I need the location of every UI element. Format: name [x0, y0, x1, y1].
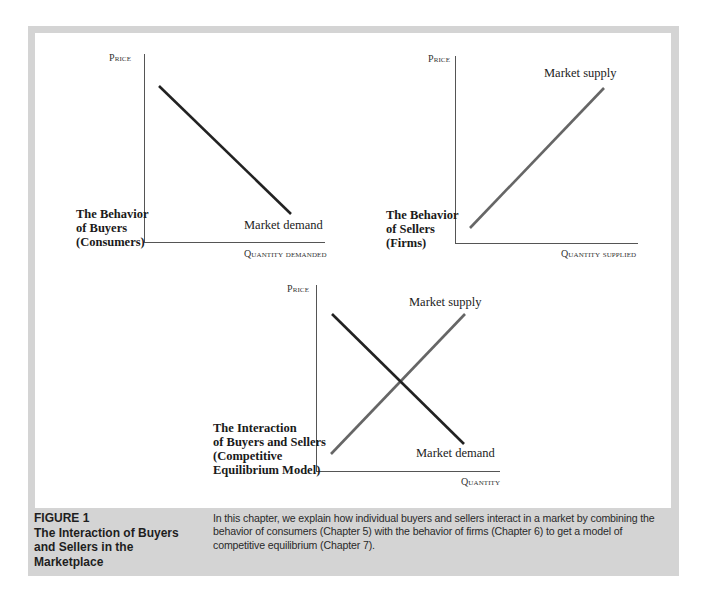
figure-title-line: The Interaction of Buyers: [34, 526, 204, 541]
demand-curve: [332, 314, 464, 444]
y-axis-label: Price: [428, 53, 450, 64]
chart-buyers: [144, 54, 325, 243]
panel-title-sellers: The Behavior of Sellers (Firms): [386, 208, 459, 250]
panel-title-buyers: The Behavior of Buyers (Consumers): [76, 207, 149, 249]
y-axis-label: Price: [109, 52, 131, 63]
supply-curve-label: Market supply: [409, 295, 482, 310]
figure-number: FIGURE 1: [34, 511, 204, 526]
figure-charts: [0, 0, 705, 596]
chart-sellers: [455, 56, 638, 244]
x-axis-label: Quantity supplied: [561, 248, 636, 259]
supply-curve-label: Market supply: [544, 66, 617, 81]
demand-curve-label: Market demand: [416, 446, 495, 461]
demand-curve: [159, 86, 291, 214]
panel-title-equilibrium: The Interaction of Buyers and Sellers (C…: [213, 421, 326, 477]
supply-curve: [331, 314, 465, 454]
supply-curve: [470, 88, 604, 228]
figure-title-line: Marketplace: [34, 555, 204, 570]
x-axis-label: Quantity demanded: [244, 248, 327, 259]
y-axis-label: Price: [287, 283, 309, 294]
figure-caption-text: In this chapter, we explain how individu…: [213, 512, 673, 552]
chart-equilibrium: [316, 285, 500, 472]
figure-title-line: and Sellers in the: [34, 540, 204, 555]
figure-caption-title: FIGURE 1 The Interaction of Buyers and S…: [34, 511, 204, 569]
demand-curve-label: Market demand: [244, 218, 323, 233]
x-axis-label: Quantity: [461, 476, 500, 487]
